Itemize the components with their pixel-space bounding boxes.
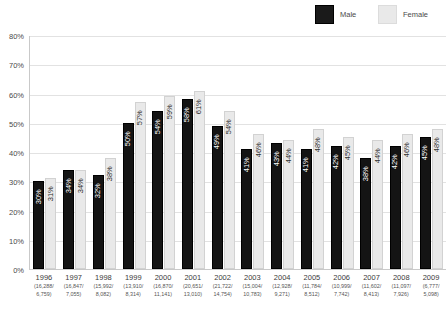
- bar-male: 42%: [331, 146, 342, 269]
- bar-female: 44%: [372, 140, 383, 269]
- bar-female: 46%: [253, 134, 264, 269]
- x-axis-year-label: 2006: [327, 272, 357, 283]
- bar-value-label: 46%: [255, 143, 263, 158]
- x-axis-male-count: (10,999/: [327, 283, 357, 291]
- bar-group: 49%54%: [208, 36, 238, 269]
- bar-group: 50%57%: [119, 36, 149, 269]
- x-axis-year-label: 2008: [386, 272, 416, 283]
- x-axis-group: 1997(16,847/7,055): [59, 272, 89, 317]
- y-axis-tick: 30%: [9, 178, 24, 187]
- y-axis-tick: 0%: [13, 266, 24, 275]
- legend-label-female: Female: [403, 10, 428, 19]
- bar-value-label: 58%: [184, 108, 192, 123]
- x-axis-female-count: 8,082): [89, 291, 119, 299]
- bar-male: 45%: [420, 137, 431, 269]
- x-axis-male-count: (16,847/: [59, 283, 89, 291]
- x-axis-female-count: 11,141): [148, 291, 178, 299]
- bar-male: 34%: [63, 170, 74, 269]
- bar-value-label: 44%: [285, 149, 293, 164]
- bar-group: 43%44%: [268, 36, 298, 269]
- bar-group: 45%48%: [416, 36, 446, 269]
- bar-group: 41%48%: [297, 36, 327, 269]
- x-axis-male-count: (20,651/: [178, 283, 208, 291]
- x-axis-female-count: 7,742): [327, 291, 357, 299]
- bar-female: 44%: [283, 140, 294, 269]
- bar-value-label: 57%: [136, 111, 144, 126]
- x-axis-group: 2005(11,784/8,512): [297, 272, 327, 317]
- bar-value-label: 41%: [243, 157, 251, 172]
- x-axis-year-label: 2005: [297, 272, 327, 283]
- bar-value-label: 44%: [374, 149, 382, 164]
- bar-value-label: 42%: [332, 154, 340, 169]
- x-axis-group: 2003(15,004/10,783): [237, 272, 267, 317]
- bar-value-label: 34%: [77, 178, 85, 193]
- x-axis-year-label: 2002: [208, 272, 238, 283]
- x-axis-female-count: 14,754): [208, 291, 238, 299]
- x-axis-group: 2004(12,928/9,271): [267, 272, 297, 317]
- bar-value-label: 46%: [404, 143, 412, 158]
- x-axis-year-label: 2000: [148, 272, 178, 283]
- bar-male: 43%: [271, 143, 282, 269]
- x-axis-group: 2000(16,870/11,141): [148, 272, 178, 317]
- y-axis-tick: 20%: [9, 207, 24, 216]
- bar-group: 42%46%: [387, 36, 417, 269]
- bar-value-label: 59%: [166, 105, 174, 120]
- x-axis-male-count: (11,602/: [357, 283, 387, 291]
- bar-value-label: 54%: [225, 119, 233, 134]
- bar-male: 38%: [360, 158, 371, 269]
- x-axis-female-count: 13,010): [178, 291, 208, 299]
- x-axis-female-count: 8,512): [297, 291, 327, 299]
- y-axis-tick: 80%: [9, 32, 24, 41]
- bar-female: 48%: [432, 129, 443, 269]
- x-axis-year-label: 2001: [178, 272, 208, 283]
- bar-male: 30%: [33, 181, 44, 269]
- bar-group: 30%31%: [30, 36, 60, 269]
- bar-value-label: 41%: [303, 157, 311, 172]
- x-axis-male-count: (15,004/: [237, 283, 267, 291]
- x-axis-female-count: 7,926): [386, 291, 416, 299]
- x-axis-year-label: 2003: [237, 272, 267, 283]
- bar-group: 58%61%: [179, 36, 209, 269]
- bar-group: 42%45%: [327, 36, 357, 269]
- y-axis-tick: 50%: [9, 119, 24, 128]
- bar-group: 41%46%: [238, 36, 268, 269]
- bar-value-label: 48%: [315, 137, 323, 152]
- x-axis-male-count: (16,870/: [148, 283, 178, 291]
- x-axis-year-label: 2004: [267, 272, 297, 283]
- x-axis-year-label: 1997: [59, 272, 89, 283]
- bar-value-label: 43%: [273, 151, 281, 166]
- x-axis-male-count: (15,992/: [89, 283, 119, 291]
- bar-value-label: 38%: [362, 166, 370, 181]
- bar-female: 31%: [45, 178, 56, 269]
- x-axis-year-label: 2009: [416, 272, 446, 283]
- y-axis: 0%10%20%30%40%50%60%70%80%: [0, 36, 27, 270]
- x-axis-female-count: 5,098): [416, 291, 446, 299]
- y-axis-tick: 70%: [9, 61, 24, 70]
- bar-groups: 30%31%34%34%32%38%50%57%54%59%58%61%49%5…: [30, 36, 446, 269]
- bar-female: 34%: [75, 170, 86, 269]
- x-axis-group: 1999(13,910/8,314): [118, 272, 148, 317]
- x-axis-female-count: 7,055): [59, 291, 89, 299]
- bar-value-label: 61%: [196, 99, 204, 114]
- x-axis-female-count: 9,271): [267, 291, 297, 299]
- bar-value-label: 49%: [213, 134, 221, 149]
- bar-female: 57%: [135, 102, 146, 269]
- legend-swatch-male-icon: [315, 5, 334, 24]
- x-axis-male-count: (11,097/: [386, 283, 416, 291]
- bar-value-label: 38%: [107, 166, 115, 181]
- y-axis-tick: 10%: [9, 236, 24, 245]
- x-axis-group: 2006(10,999/7,742): [327, 272, 357, 317]
- bar-value-label: 31%: [47, 187, 55, 202]
- x-axis-male-count: (12,928/: [267, 283, 297, 291]
- x-axis-year-label: 1998: [89, 272, 119, 283]
- x-axis-group: 1996(16,288/6,759): [29, 272, 59, 317]
- x-axis-male-count: (11,784/: [297, 283, 327, 291]
- bar-female: 59%: [164, 96, 175, 269]
- x-axis-group: 2002(21,722/14,754): [208, 272, 238, 317]
- bar-group: 54%59%: [149, 36, 179, 269]
- y-axis-tick: 40%: [9, 149, 24, 158]
- legend-item-female: Female: [378, 4, 428, 24]
- plot-area: 30%31%34%34%32%38%50%57%54%59%58%61%49%5…: [29, 36, 446, 270]
- bar-value-label: 30%: [35, 189, 43, 204]
- bar-female: 61%: [194, 91, 205, 269]
